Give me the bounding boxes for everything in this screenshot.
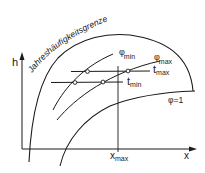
point-phimax-tmin <box>101 80 105 84</box>
point-phimin-tmin <box>73 81 77 85</box>
x-axis-label: x <box>184 150 189 161</box>
t-min-label: tmin <box>127 75 141 88</box>
x-axis-arrow-icon <box>189 147 197 152</box>
point-phimax-tmax <box>126 69 130 73</box>
diagram-canvas: h x xmax Jahreshäufigkeitsgrenze φmin φm… <box>0 0 205 173</box>
phi-min-label: φmin <box>119 47 135 60</box>
saturation-label: φ=1 <box>168 95 183 105</box>
hx-diagram: h x xmax Jahreshäufigkeitsgrenze φmin φm… <box>0 0 205 173</box>
h-axis <box>20 52 25 149</box>
t-min-line <box>51 82 123 83</box>
h-axis-arrow-icon <box>20 52 25 60</box>
phi-max-curve <box>57 61 160 120</box>
t-max-line <box>71 71 150 72</box>
x-max-label: xmax <box>110 150 129 162</box>
phi-max-label: φmax <box>154 52 173 65</box>
boundary-label: Jahreshäufigkeitsgrenze <box>25 13 109 75</box>
point-phimin-tmax <box>86 70 90 74</box>
h-axis-label: h <box>12 56 18 68</box>
